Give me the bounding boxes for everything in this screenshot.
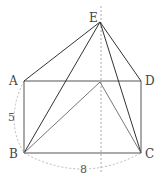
length-AB: 5 — [8, 111, 15, 124]
segment-PC — [100, 82, 141, 153]
label-E: E — [89, 11, 98, 25]
segment-EC — [100, 22, 141, 153]
segment-EB — [24, 22, 100, 153]
segment-BP — [24, 82, 100, 153]
label-A: A — [8, 74, 18, 88]
length-BC: 8 — [80, 163, 87, 176]
segment-ED — [100, 22, 141, 81]
geometry-diagram: E A D B C 5 8 — [0, 0, 165, 181]
label-C: C — [145, 147, 154, 161]
label-B: B — [9, 147, 18, 161]
label-D: D — [145, 74, 155, 88]
segment-EA — [24, 22, 100, 81]
dashed-arc-left — [14, 81, 24, 153]
diagram-canvas: E A D B C 5 8 — [0, 0, 165, 181]
